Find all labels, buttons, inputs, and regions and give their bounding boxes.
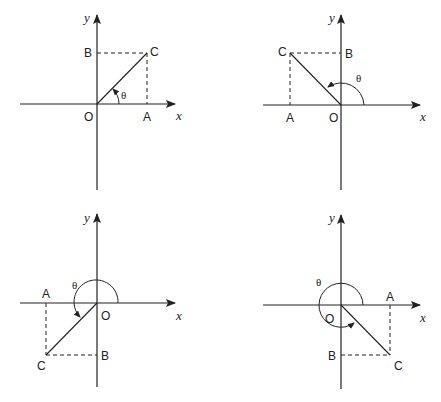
label-c: C [394,359,403,373]
label-o: O [101,309,110,323]
theta-label: θ [356,72,361,84]
label-a: A [42,287,50,301]
x-axis-label: x [175,308,182,323]
y-axis-label: y [82,210,90,225]
label-b: B [84,46,92,60]
panel-quadrant-3: θ O A B C x y [20,210,182,387]
label-b: B [345,47,353,61]
theta-label: θ [72,279,77,291]
line-oc [341,305,390,355]
label-b: B [101,349,109,363]
theta-label: θ [121,89,126,101]
label-o: O [325,312,334,326]
label-a: A [143,110,151,124]
panel-quadrant-2: θ O A B C x y [263,10,426,190]
panel-quadrant-4: θ O A B C x y [263,210,426,389]
label-c: C [37,359,46,373]
label-o: O [329,111,338,125]
diagram-canvas: θ O A B C x y θ O A B C x y θ O A B C x [0,0,441,402]
theta-arc [328,83,364,105]
theta-arc [113,89,119,104]
label-a: A [386,290,394,304]
line-oc [46,303,97,355]
x-axis-label: x [419,310,426,325]
label-c: C [278,45,287,59]
panel-quadrant-1: θ O A B C x y [20,10,182,190]
label-c: C [150,45,159,59]
x-axis-label: x [175,108,182,123]
x-axis-label: x [419,109,426,124]
label-a: A [286,111,294,125]
theta-arc [74,280,118,317]
line-oc [290,53,341,105]
label-o: O [84,110,93,124]
y-axis-label: y [327,210,335,225]
y-axis-label: y [327,10,335,25]
y-axis-label: y [82,10,90,25]
theta-label: θ [316,276,321,288]
label-b: B [328,349,336,363]
